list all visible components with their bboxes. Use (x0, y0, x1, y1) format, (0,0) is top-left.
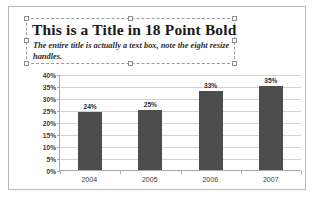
resize-handle-s[interactable] (128, 61, 133, 66)
resize-handle-ne[interactable] (232, 16, 237, 21)
y-tick-mark (57, 147, 60, 148)
bar-value-label: 35% (241, 77, 301, 85)
resize-handle-nw[interactable] (24, 16, 29, 21)
resize-handle-n[interactable] (128, 16, 133, 21)
slide-title: This is a Title in 18 Point Bold (32, 21, 236, 38)
y-tick-mark (57, 99, 60, 100)
bar-value-label: 24% (60, 103, 120, 111)
x-tick-label: 2005 (120, 175, 181, 185)
bar-value-label: 25% (120, 101, 180, 109)
y-tick-mark (57, 159, 60, 160)
bar-value-label: 33% (181, 82, 241, 90)
x-tick-label: 2007 (241, 175, 302, 185)
resize-handle-sw[interactable] (24, 61, 29, 66)
y-tick-mark (57, 87, 60, 88)
x-axis: 2004200520062007 (59, 175, 301, 187)
y-tick-label: 20% (22, 120, 56, 127)
x-tick-label: 2006 (180, 175, 241, 185)
bar-chart[interactable]: 0%5%10%15%20%25%30%35%40% 24%25%33%35% 2… (23, 69, 307, 191)
resize-handle-w[interactable] (24, 38, 29, 43)
title-text-box[interactable]: This is a Title in 18 Point Bold The ent… (26, 18, 235, 64)
bar[interactable] (138, 110, 162, 170)
resize-handle-se[interactable] (232, 61, 237, 66)
x-tick-mark (60, 171, 61, 174)
y-tick-label: 15% (22, 132, 56, 139)
y-axis: 0%5%10%15%20%25%30%35%40% (23, 75, 56, 171)
resize-handle-e[interactable] (232, 38, 237, 43)
y-tick-label: 30% (22, 96, 56, 103)
y-tick-label: 35% (22, 84, 56, 91)
y-tick-label: 5% (22, 156, 56, 163)
slide-frame: This is a Title in 18 Point Bold The ent… (8, 6, 306, 190)
bar[interactable] (259, 86, 283, 170)
y-tick-label: 40% (22, 72, 56, 79)
y-tick-label: 10% (22, 144, 56, 151)
gridline (60, 75, 301, 76)
y-tick-mark (57, 75, 60, 76)
bar[interactable] (199, 91, 223, 170)
x-tick-label: 2004 (59, 175, 120, 185)
x-tick-mark (301, 171, 302, 174)
y-tick-label: 25% (22, 108, 56, 115)
slide-subtitle: The entire title is actually a text box,… (33, 40, 231, 62)
y-tick-mark (57, 135, 60, 136)
x-tick-mark (120, 171, 121, 174)
x-tick-mark (181, 171, 182, 174)
y-tick-mark (57, 123, 60, 124)
plot-area: 24%25%33%35% (59, 75, 301, 171)
x-tick-mark (241, 171, 242, 174)
bar[interactable] (78, 112, 102, 170)
slide-canvas: This is a Title in 18 Point Bold The ent… (0, 0, 316, 201)
y-tick-label: 0% (22, 168, 56, 175)
